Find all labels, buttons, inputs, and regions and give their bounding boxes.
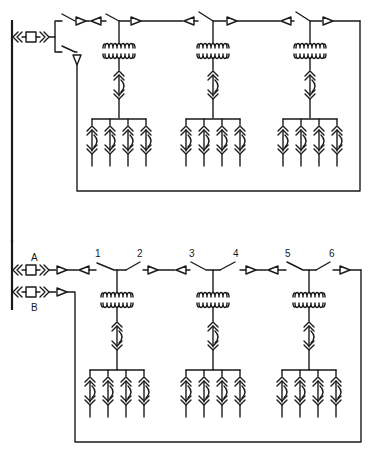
- switch-label-6: 6: [329, 248, 335, 259]
- switch-3: [191, 262, 220, 270]
- bottom-transformer-1: [101, 293, 133, 308]
- top-transformer-3: [294, 44, 326, 59]
- switch-label-3: 3: [189, 248, 195, 259]
- feeder-a-breaker: [13, 265, 49, 275]
- switch-label-4: 4: [233, 248, 239, 259]
- bottom-load-group-2: [181, 370, 245, 417]
- feeder-label-b: B: [31, 302, 38, 313]
- feeder-label-a: A: [31, 252, 38, 263]
- top-load-group-2: [181, 119, 245, 166]
- top-system: [12, 12, 360, 242]
- bottom-load-group-3: [277, 370, 341, 417]
- switch-top-a: [62, 14, 75, 21]
- feeder-b-breaker: [13, 287, 49, 297]
- switch-4: [220, 262, 235, 270]
- feeder-split-bracket: [55, 21, 59, 52]
- bottom-load-group-1: [85, 370, 149, 417]
- switch-label-1: 1: [95, 248, 101, 259]
- single-line-diagram: A B 1 2 3 4: [0, 0, 373, 453]
- switch-label-5: 5: [285, 248, 291, 259]
- bottom-system: A B 1 2 3 4: [12, 240, 361, 442]
- switch-5: [287, 262, 316, 270]
- switch-label-2: 2: [137, 248, 143, 259]
- top-transformer-2: [197, 44, 229, 59]
- top-transformer-1: [103, 44, 135, 59]
- top-feeder-breaker: [13, 32, 49, 42]
- top-load-group-1: [87, 119, 151, 166]
- bottom-transformer-2: [197, 293, 229, 308]
- bottom-transformer-3: [293, 293, 325, 308]
- top-load-group-3: [278, 119, 342, 166]
- switch-top-b: [62, 46, 77, 52]
- switch-2: [126, 262, 140, 270]
- switch-6: [316, 262, 330, 270]
- switch-1: [97, 263, 126, 270]
